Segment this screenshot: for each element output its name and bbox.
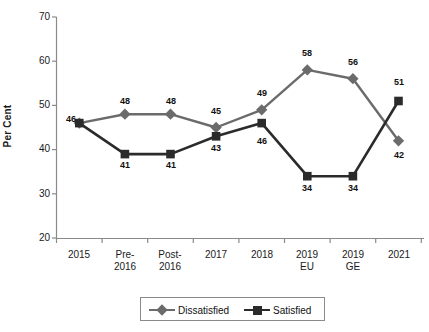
- x-tick-line1: Pre-: [102, 249, 148, 261]
- x-tick-line1: 2019: [330, 249, 376, 261]
- x-tick-label-2015: 2015: [56, 249, 102, 261]
- x-tick-line2: 2016: [147, 261, 193, 273]
- x-tick-line2: EU: [284, 261, 330, 273]
- plot-area: [0, 0, 429, 332]
- x-tick-label-post-2016: Post- 2016: [147, 249, 193, 273]
- data-label-2019eu-58: 58: [296, 48, 318, 58]
- legend-marker-square-icon: [244, 304, 270, 316]
- x-tick-line1: 2015: [56, 249, 102, 261]
- data-label-pre2016-41: 41: [114, 160, 136, 170]
- legend-label-dissatisfied: Dissatisfied: [178, 305, 229, 316]
- legend-item-satisfied[interactable]: Satisfied: [244, 302, 311, 318]
- x-tick-line2: GE: [330, 261, 376, 273]
- x-tick-line1: 2019: [284, 249, 330, 261]
- legend-item-dissatisfied[interactable]: Dissatisfied: [149, 302, 229, 318]
- x-tick-line2: 2016: [102, 261, 148, 273]
- data-label-2021-51: 51: [388, 77, 410, 87]
- data-label-2021-42: 42: [388, 150, 410, 160]
- data-label-pre2016-48: 48: [114, 96, 136, 106]
- line-chart: Per Cent 70 60 50 40 30 20: [0, 0, 429, 332]
- data-label-post2016-48: 48: [160, 96, 182, 106]
- data-label-2017-43: 43: [205, 143, 227, 153]
- data-label-2017-45: 45: [205, 106, 227, 116]
- x-tick-line1: Post-: [147, 249, 193, 261]
- x-tick-label-2019-eu: 2019 EU: [284, 249, 330, 273]
- legend-label-satisfied: Satisfied: [273, 305, 311, 316]
- data-label-post2016-41: 41: [160, 160, 182, 170]
- data-label-2019ge-56: 56: [342, 57, 364, 67]
- x-tick-label-2017: 2017: [193, 249, 239, 261]
- x-tick-label-2018: 2018: [239, 249, 285, 261]
- data-label-2015-46: 46: [56, 114, 76, 124]
- x-tick-line1: 2018: [239, 249, 285, 261]
- data-label-2018-46: 46: [251, 136, 273, 146]
- x-tick-line1: 2021: [376, 249, 422, 261]
- data-label-2018-49: 49: [251, 88, 273, 98]
- x-tick-line1: 2017: [193, 249, 239, 261]
- legend: Dissatisfied Satisfied: [140, 297, 325, 321]
- x-tick-label-pre-2016: Pre- 2016: [102, 249, 148, 273]
- legend-marker-diamond-icon: [149, 304, 175, 316]
- x-tick-label-2021: 2021: [376, 249, 422, 261]
- y-axis-ticks: [52, 17, 57, 238]
- data-label-2019eu-34: 34: [296, 183, 318, 193]
- x-tick-label-2019-ge: 2019 GE: [330, 249, 376, 273]
- data-label-2019ge-34: 34: [342, 183, 364, 193]
